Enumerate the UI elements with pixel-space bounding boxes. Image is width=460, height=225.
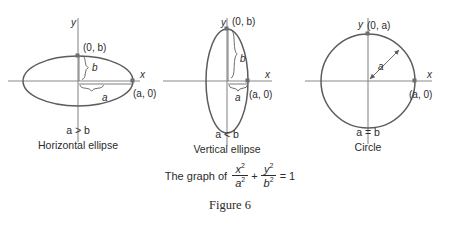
- panel-name-label-1: Horizontal ellipse: [38, 139, 118, 151]
- vertex-dot-right-2: [246, 79, 250, 83]
- numerator-y-squared: y2: [261, 162, 276, 176]
- x-axis-label-2: x: [264, 69, 271, 80]
- vertex-dot-right-1: [131, 79, 135, 83]
- equation-row: The graph of x2 a2 + y2 b2 = 1: [0, 162, 460, 189]
- condition-label-1: a > b: [66, 124, 90, 136]
- brace-a-2: [229, 85, 248, 91]
- equation-equals-one: = 1: [280, 170, 296, 182]
- figure-caption: Figure 6: [0, 198, 460, 213]
- ellipse-equation: The graph of x2 a2 + y2 b2 = 1: [165, 162, 295, 189]
- equation-prefix: The graph of: [165, 170, 227, 182]
- fraction-y-over-b: y2 b2: [261, 162, 277, 189]
- panel-circle: y x (0, a) (a, 0) a a = b Circle: [305, 18, 433, 153]
- point-right-label-1: (a, 0): [133, 88, 156, 99]
- condition-label-3: a = b: [356, 126, 380, 138]
- vertex-dot-top-3: [366, 32, 370, 36]
- numerator-x-squared: x2: [232, 162, 247, 176]
- figure-6-container: y x (0, b) (a, 0) b a a > b Horizontal e…: [0, 0, 460, 225]
- condition-label-2: a < b: [215, 128, 239, 140]
- radius-arrow: [370, 50, 399, 79]
- point-right-label-3: (a, 0): [409, 89, 432, 100]
- semi-major-label-2: a: [235, 92, 241, 103]
- brace-b-2: [231, 30, 237, 78]
- panel-name-label-2: Vertical ellipse: [193, 143, 260, 155]
- vertex-dot-top-1: [76, 54, 80, 58]
- y-axis-label-1: y: [70, 17, 77, 28]
- x-axis-label-1: x: [139, 69, 146, 80]
- point-top-label-3: (0, a): [367, 20, 390, 31]
- panel-vertical-ellipse: y x (0, b) (a, 0) b a a < b Vertical ell…: [163, 16, 272, 155]
- ellipse-figures-diagram: y x (0, b) (a, 0) b a a > b Horizontal e…: [0, 0, 460, 225]
- vertex-dot-right-3: [413, 79, 417, 83]
- point-top-label-2: (0, b): [232, 16, 255, 27]
- y-axis-label-3: y: [357, 19, 364, 30]
- denominator-a-squared: a2: [232, 176, 248, 189]
- panel-horizontal-ellipse: y x (0, b) (a, 0) b a a > b Horizontal e…: [8, 17, 156, 151]
- x-axis-label-3: x: [426, 69, 433, 80]
- panel-name-label-3: Circle: [355, 141, 382, 153]
- y-axis-label-2: y: [220, 17, 227, 28]
- brace-a-1: [80, 85, 103, 91]
- semi-major-label-1: a: [102, 92, 108, 103]
- semi-minor-label-2: b: [240, 53, 246, 64]
- point-top-label-1: (0, b): [83, 42, 106, 53]
- brace-b-1: [82, 56, 88, 79]
- semi-minor-label-1: b: [92, 62, 98, 73]
- equation-plus: +: [251, 170, 257, 182]
- radius-label-3: a: [378, 61, 384, 72]
- denominator-b-squared: b2: [261, 176, 277, 189]
- point-right-label-2: (a, 0): [249, 89, 272, 100]
- fraction-x-over-a: x2 a2: [232, 162, 248, 189]
